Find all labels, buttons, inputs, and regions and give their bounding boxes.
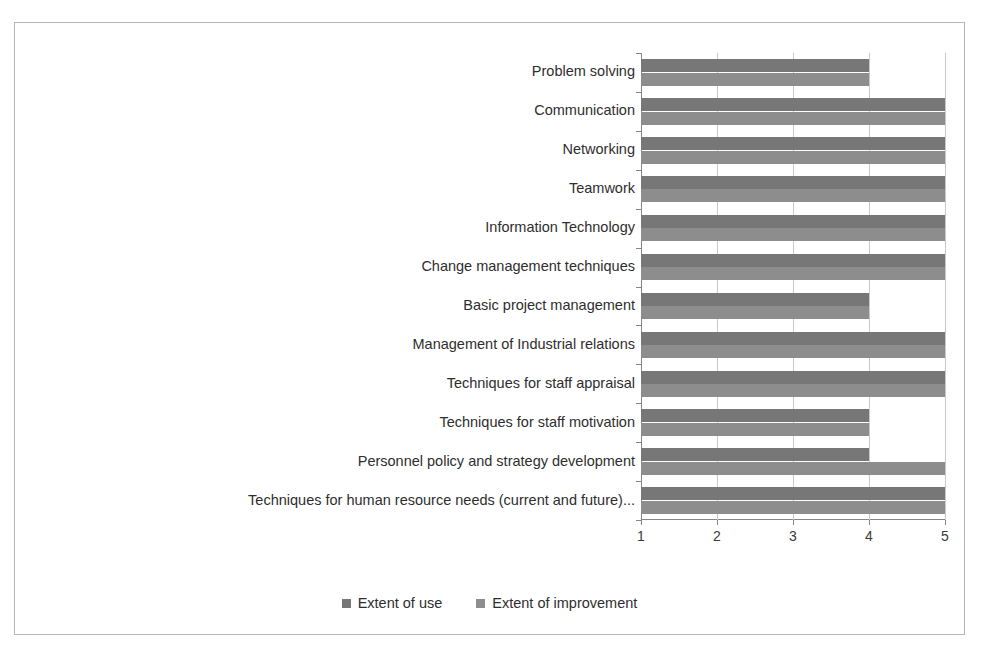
category-tick-mark [636, 287, 641, 288]
bar-extent-of-use [641, 176, 945, 189]
bar-extent-of-improvement [641, 384, 945, 397]
category-tick-mark [636, 92, 641, 93]
category-label: Techniques for staff appraisal [447, 376, 635, 391]
category-tick-mark [636, 325, 641, 326]
bar-extent-of-use [641, 59, 869, 72]
category-label: Change management techniques [421, 259, 635, 274]
x-tick-mark [641, 520, 642, 525]
x-tick-label: 2 [713, 528, 721, 544]
bar-extent-of-use [641, 293, 869, 306]
bar-extent-of-use [641, 98, 945, 111]
legend-item[interactable]: Extent of use [342, 595, 443, 611]
category-tick-mark [636, 520, 641, 521]
bar-extent-of-use [641, 409, 869, 422]
bar-extent-of-use [641, 371, 945, 384]
category-tick-mark [636, 209, 641, 210]
bar-extent-of-use [641, 215, 945, 228]
x-tick-mark [793, 520, 794, 525]
chart-legend: Extent of useExtent of improvement [15, 595, 964, 611]
category-label: Techniques for staff motivation [439, 415, 635, 430]
plot-area: 12345 [641, 53, 945, 520]
category-tick-mark [636, 442, 641, 443]
legend-label: Extent of improvement [492, 595, 637, 611]
category-label: Personnel policy and strategy developmen… [358, 454, 635, 469]
bar-extent-of-improvement [641, 345, 945, 358]
category-label: Management of Industrial relations [413, 337, 635, 352]
bar-extent-of-use [641, 332, 945, 345]
category-label: Basic project management [463, 298, 635, 313]
legend-label: Extent of use [358, 595, 443, 611]
category-tick-mark [636, 170, 641, 171]
x-tick-mark [869, 520, 870, 525]
category-label: Problem solving [532, 64, 635, 79]
category-tick-mark [636, 131, 641, 132]
bar-extent-of-improvement [641, 423, 869, 436]
legend-swatch-icon [476, 599, 485, 608]
bar-extent-of-improvement [641, 267, 945, 280]
category-label: Communication [534, 103, 635, 118]
x-tick-mark [717, 520, 718, 525]
gridline [945, 53, 946, 520]
category-tick-mark [636, 53, 641, 54]
category-tick-mark [636, 248, 641, 249]
category-label: Information Technology [485, 220, 635, 235]
bar-extent-of-use [641, 254, 945, 267]
x-tick-label: 1 [637, 528, 645, 544]
bar-extent-of-improvement [641, 462, 945, 475]
category-tick-mark [636, 403, 641, 404]
bar-extent-of-improvement [641, 112, 945, 125]
legend-item[interactable]: Extent of improvement [476, 595, 637, 611]
bar-extent-of-improvement [641, 73, 869, 86]
category-label: Teamwork [569, 181, 635, 196]
chart-figure: Problem solvingCommunicationNetworkingTe… [14, 22, 965, 635]
bar-extent-of-improvement [641, 189, 945, 202]
category-tick-mark [636, 481, 641, 482]
x-tick-label: 3 [789, 528, 797, 544]
bar-extent-of-use [641, 137, 945, 150]
x-tick-mark [945, 520, 946, 525]
bar-extent-of-improvement [641, 151, 945, 164]
legend-swatch-icon [342, 599, 351, 608]
category-tick-mark [636, 364, 641, 365]
bar-extent-of-use [641, 448, 869, 461]
x-tick-label: 5 [941, 528, 949, 544]
bar-extent-of-improvement [641, 306, 869, 319]
bar-extent-of-improvement [641, 501, 945, 514]
bar-extent-of-use [641, 487, 945, 500]
category-label: Networking [562, 142, 635, 157]
category-label: Techniques for human resource needs (cur… [248, 493, 635, 508]
x-tick-label: 4 [865, 528, 873, 544]
category-axis-labels: Problem solvingCommunicationNetworkingTe… [15, 53, 635, 520]
bar-extent-of-improvement [641, 228, 945, 241]
